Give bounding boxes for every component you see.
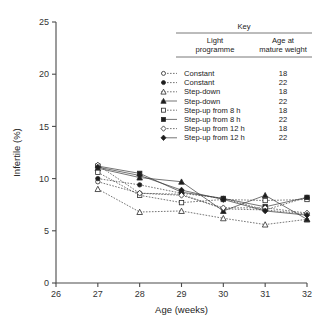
series-6: [95, 162, 310, 216]
marker-diamond-filled: [161, 135, 166, 140]
key-legend: KeyLightprogrammeAge atmature weightCons…: [161, 22, 312, 142]
x-axis-title: Age (weeks): [155, 304, 208, 315]
key-row-value: 22: [279, 115, 287, 124]
key-row-value: 22: [279, 133, 287, 142]
x-tick-label: 32: [302, 289, 312, 299]
key-row-value: 22: [279, 97, 287, 106]
marker-square-open: [263, 198, 267, 202]
x-tick-label: 30: [218, 289, 228, 299]
x-tick-label: 29: [176, 289, 186, 299]
key-title: Key: [237, 22, 250, 31]
key-row-6[interactable]: Step-up from 12 h18: [161, 124, 287, 133]
series-line: [98, 165, 307, 213]
marker-square-filled: [305, 195, 309, 199]
key-row-4[interactable]: Step-up from 8 h18: [161, 106, 287, 115]
key-row-value: 18: [279, 69, 287, 78]
key-row-7[interactable]: Step-up from 12 h22: [161, 133, 287, 142]
key-row-value: 22: [279, 78, 287, 87]
key-row-label: Step-up from 12 h: [184, 124, 245, 133]
marker-triangle-open: [95, 186, 101, 191]
marker-circle-filled: [162, 81, 166, 85]
series-line: [98, 179, 307, 210]
x-tick-label: 28: [135, 289, 145, 299]
key-row-0[interactable]: Constant18: [161, 69, 287, 78]
key-row-2[interactable]: Step-down18: [161, 87, 287, 96]
key-row-value: 18: [279, 87, 287, 96]
marker-diamond-open: [161, 126, 166, 131]
series-7: [95, 164, 310, 218]
series-1: [96, 176, 310, 212]
key-row-label: Constant: [184, 69, 215, 78]
key-row-label: Step-up from 8 h: [184, 106, 241, 115]
marker-circle-filled: [137, 183, 141, 187]
key-col1-header-line2: programme: [196, 45, 235, 54]
infertility-line-chart: 051015202526272829303132Age (weeks)Infer…: [0, 0, 321, 325]
y-tick-label: 15: [39, 122, 49, 132]
marker-square-open: [96, 170, 100, 174]
key-row-label: Constant: [184, 78, 215, 87]
x-tick-label: 31: [260, 289, 270, 299]
key-col2-header-line1: Age at: [272, 36, 295, 45]
axes-group: 051015202526272829303132Age (weeks)Infer…: [11, 17, 312, 315]
series-2: [95, 186, 310, 227]
marker-triangle-filled: [262, 193, 268, 198]
marker-circle-open: [162, 71, 166, 75]
y-tick-label: 5: [44, 226, 49, 236]
x-tick-label: 26: [51, 289, 61, 299]
y-axis-title: Infertile (%): [11, 128, 22, 177]
key-row-label: Step-down: [184, 87, 220, 96]
key-row-value: 18: [279, 106, 287, 115]
series-line: [98, 167, 307, 215]
axis-lines: [56, 22, 307, 283]
marker-square-open: [162, 108, 166, 112]
data-series-group: [95, 162, 310, 227]
marker-square-open: [179, 200, 183, 204]
chart-figure: 051015202526272829303132Age (weeks)Infer…: [0, 0, 321, 325]
key-row-1[interactable]: Constant22: [161, 78, 287, 87]
y-tick-label: 0: [44, 278, 49, 288]
series-0: [96, 180, 310, 217]
y-tick-label: 20: [39, 69, 49, 79]
key-row-5[interactable]: Step-up from 8 h22: [161, 115, 287, 124]
y-tick-label: 10: [39, 174, 49, 184]
series-line: [98, 182, 307, 214]
key-row-3[interactable]: Step-down22: [161, 97, 287, 106]
series-line: [98, 166, 307, 207]
key-row-label: Step-down: [184, 97, 220, 106]
series-3: [95, 165, 310, 221]
series-line: [98, 168, 307, 219]
marker-square-filled: [162, 117, 166, 121]
series-4: [96, 170, 310, 205]
marker-triangle-open: [137, 209, 143, 214]
y-tick-label: 25: [39, 17, 49, 27]
series-line: [98, 172, 307, 202]
key-row-value: 18: [279, 124, 287, 133]
key-col2-header-line2: mature weight: [259, 45, 308, 54]
key-row-label: Step-up from 12 h: [184, 133, 245, 142]
key-row-label: Step-up from 8 h: [184, 115, 241, 124]
key-col1-header-line1: Light: [207, 36, 224, 45]
x-tick-label: 27: [93, 289, 103, 299]
marker-circle-filled: [96, 176, 100, 180]
